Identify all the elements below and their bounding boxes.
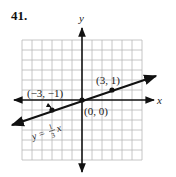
label-point-neg3-neg1: (−3, −1): [27, 87, 64, 100]
y-axis-label: y: [78, 12, 84, 24]
equation-label: y = 1 3 x: [29, 120, 65, 146]
label-point-3-1: (3, 1): [96, 74, 120, 87]
point-neg3-neg1: [49, 107, 54, 112]
coordinate-plane: y x (3, 1) (0, 0) (−3, −1) y = 1 3 x: [0, 0, 176, 177]
x-axis-label: x: [156, 94, 162, 106]
point-origin: [79, 97, 84, 102]
point-3-1: [109, 87, 114, 92]
svg-text:3: 3: [50, 131, 56, 140]
label-point-origin: (0, 0): [84, 105, 108, 118]
